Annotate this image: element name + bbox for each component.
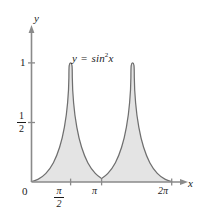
x-axis-arrowhead [180, 179, 188, 185]
sin-squared-curve [32, 63, 172, 182]
x-tick-pi-over-2-denominator: 2 [56, 199, 63, 209]
x-axis-label: x [188, 178, 193, 189]
y-axis-label: y [34, 13, 39, 24]
x-tick-label-2pi: 2π [158, 186, 168, 196]
figure-container: y x 0 1 1 2 π 2 π 2π y = sin2x [0, 0, 201, 211]
function-label-sin: sin [91, 52, 104, 64]
function-equation-label: y = sin2x [72, 53, 114, 64]
function-label-y: y [72, 52, 77, 64]
graph-canvas [0, 0, 201, 211]
y-tick-label-one-half: 1 2 [17, 111, 26, 134]
x-tick-label-pi-over-2: π 2 [54, 186, 64, 209]
y-tick-one-half-numerator: 1 [18, 111, 25, 121]
x-tick-label-pi: π [92, 186, 97, 196]
function-label-variable: x [109, 52, 114, 64]
function-label-equals: = [80, 52, 88, 64]
y-axis-arrowhead [29, 25, 35, 33]
x-tick-pi-over-2-numerator: π [55, 186, 62, 196]
y-tick-one-half-denominator: 2 [18, 124, 25, 134]
y-tick-label-1: 1 [20, 57, 26, 68]
origin-label: 0 [22, 186, 28, 197]
